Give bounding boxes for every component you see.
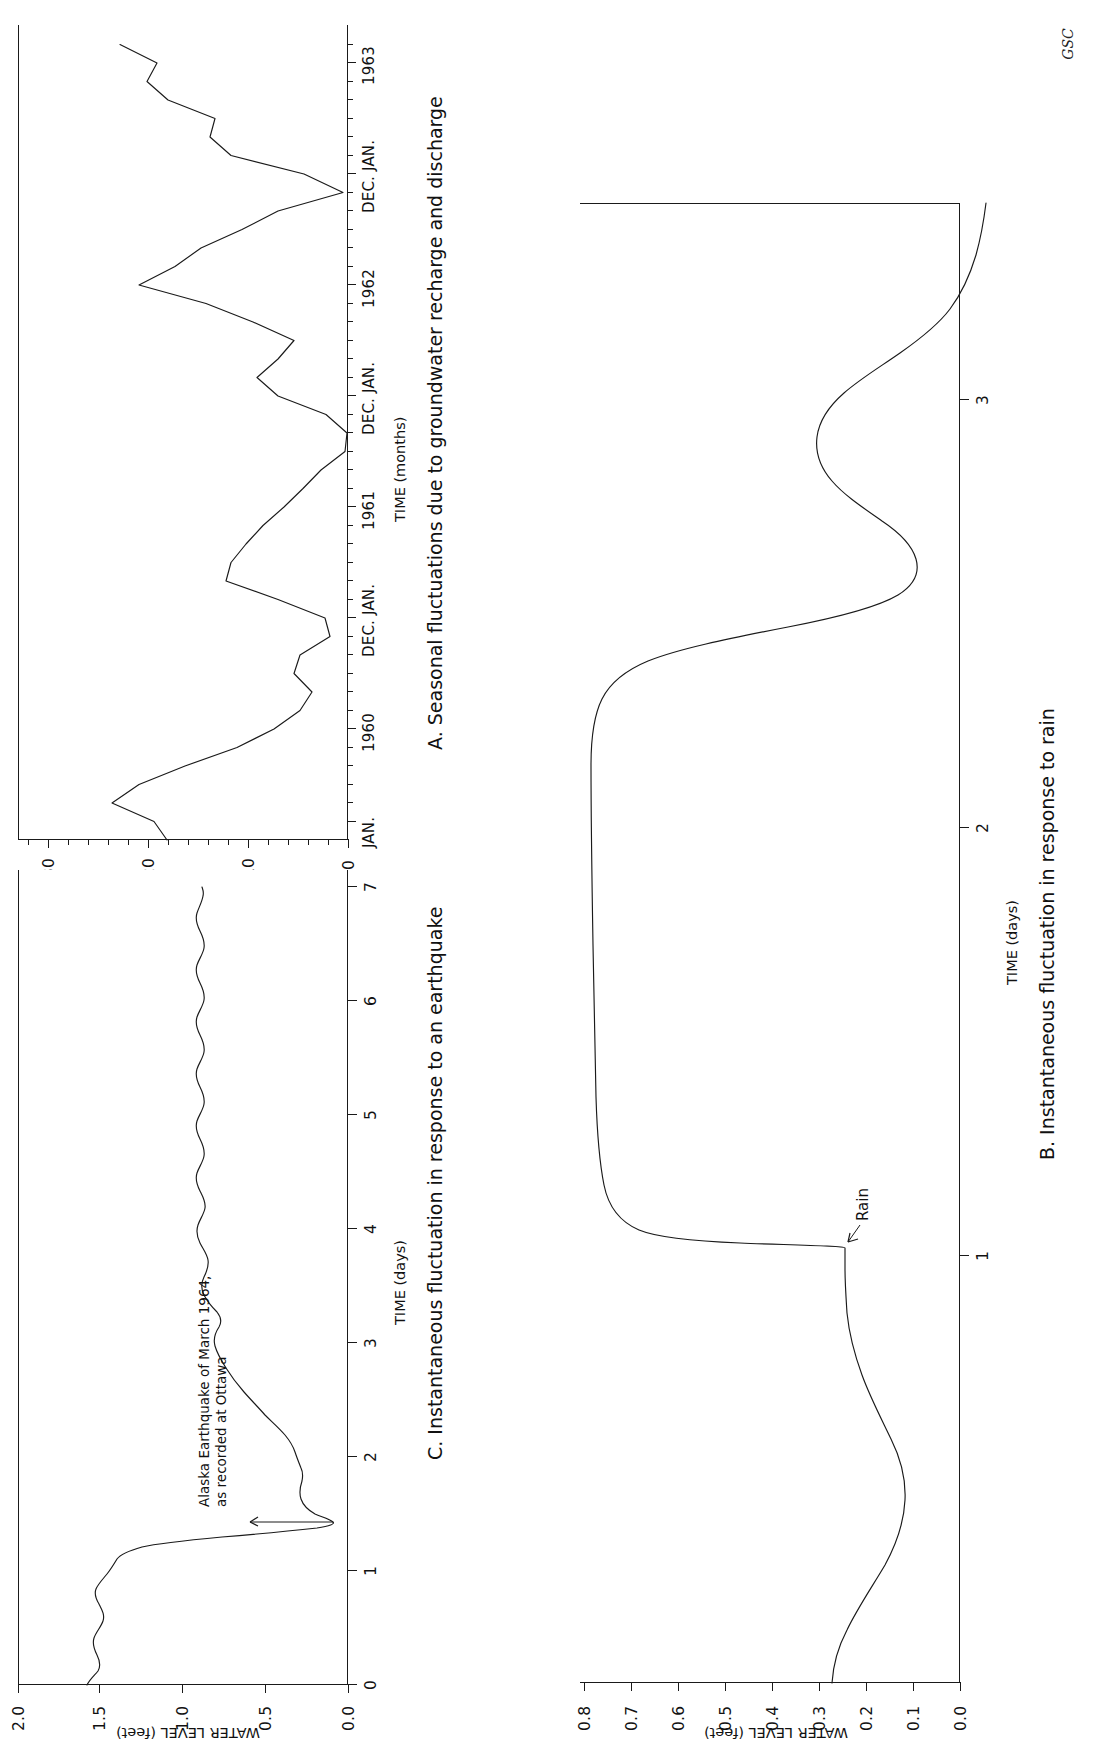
panel-c-xtick-label-4: 4 — [362, 1224, 380, 1234]
panel-c-ytick-label-0: 0.0 — [340, 1706, 358, 1731]
panel-a-xtick-label-7: 1963 — [360, 46, 378, 85]
panel-c-xtick-label-6: 6 — [362, 996, 380, 1006]
panel-c-xtick-label-1: 1 — [362, 1566, 380, 1576]
panel-c-annotation-arrow-a — [250, 1522, 258, 1526]
panel-b-xtick-label-1: 2 — [974, 823, 992, 833]
panel-a-caption: A. Seasonal fluctuations due to groundwa… — [424, 96, 446, 750]
panel-b-xtick-label-2: 3 — [974, 395, 992, 405]
gsc-credit: GSC — [1060, 28, 1076, 60]
panel-c-ytick-label-3: 1.5 — [91, 1706, 109, 1731]
panel-a-xtick-label-6: DEC. JAN. — [360, 140, 378, 213]
panel-b-line — [591, 203, 986, 1683]
panel-c-annotation-line-2: as recorded at Ottawa — [213, 1276, 230, 1507]
panel-c-xtick-label-5: 5 — [362, 1110, 380, 1120]
panel-a-line — [112, 45, 347, 841]
panel-c-ytick-label-4: 2.0 — [10, 1706, 28, 1731]
panel-c-annotation: Alaska Earthquake of March 1964, as reco… — [196, 1276, 230, 1507]
panel-a-xtick-label-0: JAN. — [360, 817, 378, 848]
panel-b-ytick-label-2: 0.2 — [858, 1706, 876, 1731]
panel-b-ytick-label-0: 0.0 — [952, 1706, 970, 1731]
panel-c-xtick-label-0: 0 — [362, 1680, 380, 1690]
panel-b-caption: B. Instantaneous fluctuation in response… — [1036, 708, 1058, 1160]
panel-c-xtick-label-3: 3 — [362, 1338, 380, 1348]
panel-b-ytick-label-7: 0.7 — [623, 1706, 641, 1731]
panel-a-xtick-label-2: DEC. JAN. — [360, 584, 378, 657]
panel-b-yaxis-title: WATER LEVEL (feet) — [704, 1725, 848, 1741]
panel-a-xtick-label-5: 1962 — [360, 269, 378, 308]
panel-c-xtick-label-7: 7 — [362, 882, 380, 892]
panel-a-xtick-label-1: 1960 — [360, 713, 378, 752]
panel-a-xaxis-title: TIME (months) — [392, 417, 408, 522]
panel-b-xtick-label-0: 1 — [974, 1251, 992, 1261]
panel-a-xtick-label-3: 1961 — [360, 491, 378, 530]
panel-a-series — [0, 5, 560, 900]
panel-c-annotation-arrow-b — [250, 1517, 258, 1522]
panel-b-ytick-label-8: 0.8 — [576, 1706, 594, 1731]
panel-b: Rain 1 2 3 0.8 0.7 0.6 0.5 0.4 0.3 0.2 0… — [560, 125, 1118, 1745]
panel-c-caption: C. Instantaneous fluctuation in response… — [424, 907, 446, 1460]
panel-c-xaxis-title: TIME (days) — [392, 1240, 408, 1325]
panel-c-annotation-line-1: Alaska Earthquake of March 1964, — [196, 1276, 213, 1507]
panel-c-series — [0, 850, 560, 1745]
panel-b-ytick-label-1: 0.1 — [905, 1706, 923, 1731]
panel-a: JAN. 1960 DEC. JAN. 1961 DEC. JAN. 1962 … — [0, 5, 555, 900]
panel-b-annotation: Rain — [854, 1188, 873, 1221]
panel-b-ytick-label-6: 0.6 — [670, 1706, 688, 1731]
panel-c: Alaska Earthquake of March 1964, as reco… — [0, 850, 555, 1745]
panel-b-xaxis-title: TIME (days) — [1004, 900, 1020, 985]
panel-a-xtick-label-4: DEC. JAN. — [360, 362, 378, 435]
figure-page: JAN. 1960 DEC. JAN. 1961 DEC. JAN. 1962 … — [0, 0, 1119, 1745]
panel-c-xtick-label-2: 2 — [362, 1452, 380, 1462]
panel-c-yaxis-title: WATER LEVEL (feet) — [116, 1725, 260, 1741]
